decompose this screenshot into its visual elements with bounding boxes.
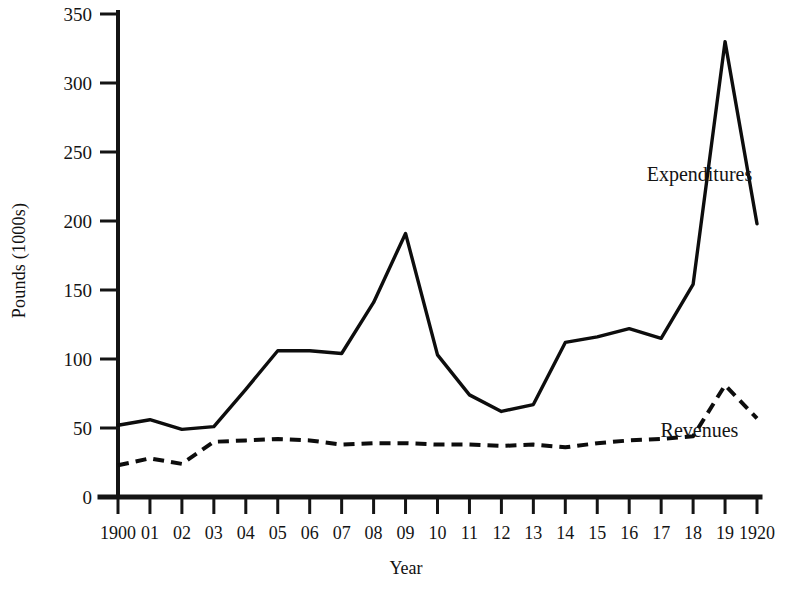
x-tick-label: 19: [716, 523, 734, 543]
x-tick-label: 01: [141, 523, 159, 543]
x-tick-label: 04: [237, 523, 255, 543]
data-series-group: [118, 42, 757, 466]
x-tick-label: 02: [173, 523, 191, 543]
y-tick-label: 250: [64, 142, 93, 163]
y-axis-ticks: 050100150200250300350: [64, 4, 119, 508]
y-tick-label: 350: [64, 4, 93, 25]
y-tick-label: 300: [64, 73, 93, 94]
y-tick-label: 50: [73, 418, 92, 439]
x-axis-ticks: 1900010203040506070809101112131415161718…: [100, 497, 775, 543]
x-tick-label: 03: [205, 523, 223, 543]
x-tick-label: 16: [620, 523, 638, 543]
line-chart-plot: 050100150200250300350 190001020304050607…: [0, 0, 812, 590]
annotation-revenues: Revenues: [661, 419, 739, 441]
x-tick-label: 05: [269, 523, 287, 543]
x-tick-label: 15: [588, 523, 606, 543]
chart-figure: Pounds (1000s) 050100150200250300350 190…: [0, 0, 812, 590]
y-tick-label: 100: [64, 349, 93, 370]
x-tick-label: 14: [556, 523, 574, 543]
x-tick-label: 1900: [100, 523, 136, 543]
y-tick-label: 200: [64, 211, 93, 232]
y-tick-label: 150: [64, 280, 93, 301]
x-tick-label: 13: [524, 523, 542, 543]
x-tick-label: 07: [333, 523, 351, 543]
series-line-expenditures: [118, 42, 757, 430]
annotation-expenditures: Expenditures: [647, 163, 753, 186]
x-tick-label: 10: [429, 523, 447, 543]
series-annotations: ExpendituresRevenues: [647, 163, 753, 440]
x-tick-label: 1920: [739, 523, 775, 543]
x-tick-label: 11: [461, 523, 478, 543]
x-tick-label: 18: [684, 523, 702, 543]
x-tick-label: 06: [301, 523, 319, 543]
y-tick-label: 0: [83, 487, 93, 508]
x-tick-label: 12: [492, 523, 510, 543]
x-tick-label: 08: [365, 523, 383, 543]
x-tick-label: 09: [397, 523, 415, 543]
x-axis-title: Year: [0, 558, 812, 579]
x-tick-label: 17: [652, 523, 670, 543]
